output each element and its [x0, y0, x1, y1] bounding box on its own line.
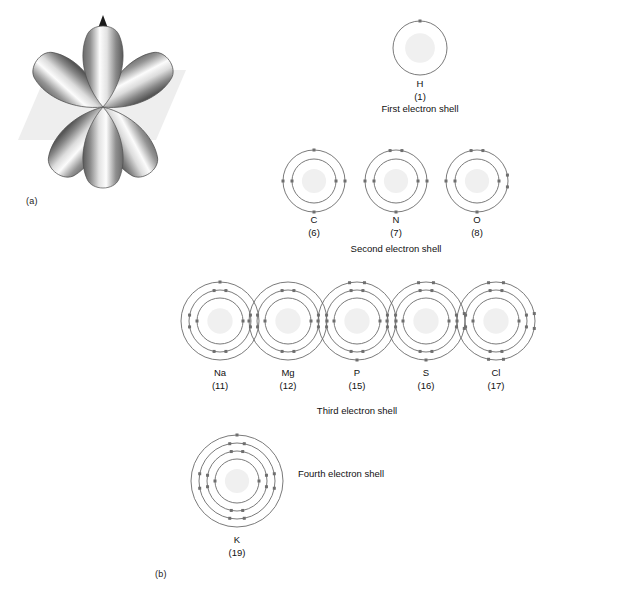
electron-dot [487, 281, 490, 284]
electron-dot [313, 149, 316, 152]
electron-dot [373, 180, 376, 183]
electron-dot [333, 320, 336, 323]
electron-dot [325, 314, 328, 317]
electron-dot [364, 180, 367, 183]
electron-dot [400, 149, 403, 152]
atom-svg [360, 145, 432, 217]
electron-dot [445, 180, 448, 183]
shell-row-label-first: First electron shell [381, 103, 458, 114]
electron-dot [500, 289, 503, 292]
electron-dot [188, 325, 191, 328]
atom-nucleus [413, 308, 438, 333]
electron-dot [402, 320, 405, 323]
atom-caption-h: H(1) [414, 78, 426, 103]
atom-svg [186, 430, 288, 532]
electron-dot [282, 180, 285, 183]
atom-model-c [278, 145, 350, 217]
shell-row-label-third: Third electron shell [317, 405, 397, 416]
electron-dot [213, 350, 216, 353]
panel-a-label: (a) [26, 196, 38, 206]
electron-dot [291, 180, 294, 183]
electron-dot [425, 359, 428, 362]
shell-row-label-fourth: Fourth electron shell [298, 468, 384, 479]
atom-caption-o: O(8) [471, 214, 483, 239]
electron-dot [472, 320, 475, 323]
electron-dot [248, 320, 251, 323]
electron-dot [417, 180, 420, 183]
electron-dot [356, 359, 359, 362]
electron-dot [456, 320, 459, 323]
orbital-diagram [8, 10, 198, 225]
atom-symbol: N [390, 214, 402, 227]
electron-dot [325, 325, 328, 328]
electron-dot [317, 320, 320, 323]
electron-dot [206, 485, 209, 488]
electron-dot [273, 472, 276, 475]
electron-dot [430, 289, 433, 292]
atom-atomic-number: (19) [229, 547, 246, 560]
electron-dot [498, 180, 501, 183]
atom-atomic-number: (6) [308, 227, 320, 240]
atom-model-k [186, 430, 288, 532]
atom-symbol: K [229, 534, 246, 547]
electron-dot [394, 314, 397, 317]
electron-dot [236, 434, 239, 437]
electron-dot [350, 350, 353, 353]
atom-caption-k: K(19) [229, 534, 246, 559]
electron-dot [241, 509, 244, 512]
electron-shell-figure: (a) H(1)First electron shellC(6)N(7)O(8)… [0, 0, 637, 598]
shell-row-label-second: Second electron shell [351, 243, 442, 254]
atom-symbol: S [418, 367, 435, 380]
atom-caption-s: S(16) [418, 367, 435, 392]
electron-dot [518, 320, 521, 323]
electron-dot [292, 350, 295, 353]
atom-nucleus [483, 308, 508, 333]
electron-dot [188, 314, 191, 317]
electron-dot [350, 289, 353, 292]
electron-dot [525, 314, 528, 317]
electron-dot [265, 485, 268, 488]
atom-nucleus [207, 308, 232, 333]
atom-symbol: Mg [280, 367, 297, 380]
electron-dot [198, 487, 201, 490]
electron-dot [506, 174, 509, 177]
electron-dot [481, 149, 484, 152]
atom-svg [278, 145, 350, 217]
electron-dot [281, 350, 284, 353]
electron-dot [525, 325, 528, 328]
atom-model-h [388, 16, 452, 80]
electron-dot [417, 281, 420, 284]
atom-symbol: Na [212, 367, 228, 380]
atom-svg [441, 145, 513, 217]
electron-dot [419, 289, 422, 292]
atom-caption-cl: Cl(17) [488, 367, 505, 392]
electron-dot [292, 289, 295, 292]
electron-dot [228, 517, 231, 520]
electron-dot [506, 185, 509, 188]
electron-dot [241, 450, 244, 453]
electron-dot [502, 281, 505, 284]
electron-dot [448, 320, 451, 323]
atom-svg [452, 277, 540, 365]
atom-caption-mg: Mg(12) [280, 367, 297, 392]
electron-dot [470, 149, 473, 152]
electron-dot [258, 480, 261, 483]
electron-dot [361, 289, 364, 292]
orbital-svg [8, 10, 198, 225]
electron-dot [228, 442, 231, 445]
electron-dot [464, 325, 467, 328]
electron-dot [243, 517, 246, 520]
atom-caption-na: Na(11) [212, 367, 228, 392]
electron-dot [335, 180, 338, 183]
electron-dot [219, 281, 222, 284]
atom-symbol: Cl [488, 367, 505, 380]
electron-dot [426, 180, 429, 183]
electron-dot [281, 289, 284, 292]
atom-symbol: O [471, 214, 483, 227]
electron-dot [361, 350, 364, 353]
panel-b-label: (b) [155, 569, 167, 579]
electron-dot [224, 289, 227, 292]
atom-atomic-number: (7) [390, 227, 402, 240]
electron-dot [224, 350, 227, 353]
atom-svg [388, 16, 452, 80]
